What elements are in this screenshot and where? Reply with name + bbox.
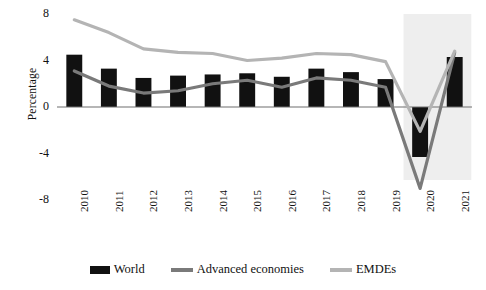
line-series-advanced-economies (74, 52, 454, 188)
x-tick-label-2020: 2020 (425, 190, 436, 212)
x-tick-label-2012: 2012 (148, 190, 159, 212)
legend-item-world[interactable]: World (90, 262, 145, 277)
x-tick-label-2014: 2014 (218, 190, 229, 212)
legend-item-advanced-economies[interactable]: Advanced economies (171, 262, 304, 277)
bar-2014 (205, 74, 221, 107)
legend-label: EMDEs (356, 262, 396, 277)
x-tick-label-2013: 2013 (183, 190, 194, 212)
plot-area (0, 0, 486, 290)
x-tick-label-2015: 2015 (252, 190, 263, 212)
bar-2010 (66, 55, 82, 107)
bar-2016 (274, 77, 290, 107)
line-series-emdes (74, 20, 454, 132)
bar-2015 (239, 73, 255, 107)
x-tick-label-2017: 2017 (321, 190, 332, 212)
x-tick-label-2018: 2018 (356, 190, 367, 212)
x-tick-label-2010: 2010 (79, 190, 90, 212)
bar-2018 (343, 72, 359, 107)
x-tick-label-2021: 2021 (460, 190, 471, 212)
legend-bar-swatch-icon (90, 266, 110, 274)
legend-line-swatch-icon (330, 268, 352, 272)
x-tick-label-2011: 2011 (114, 190, 125, 212)
legend-item-emdes[interactable]: EMDEs (330, 262, 396, 277)
legend-line-swatch-icon (171, 268, 193, 272)
bar-2017 (308, 69, 324, 107)
chart-legend: WorldAdvanced economiesEMDEs (0, 262, 486, 277)
legend-label: World (114, 262, 145, 277)
x-tick-label-2016: 2016 (287, 190, 298, 212)
x-tick-label-2019: 2019 (391, 190, 402, 212)
legend-label: Advanced economies (197, 262, 304, 277)
chart-container: Percentage 840-4-8 201020112012201320142… (0, 0, 486, 290)
